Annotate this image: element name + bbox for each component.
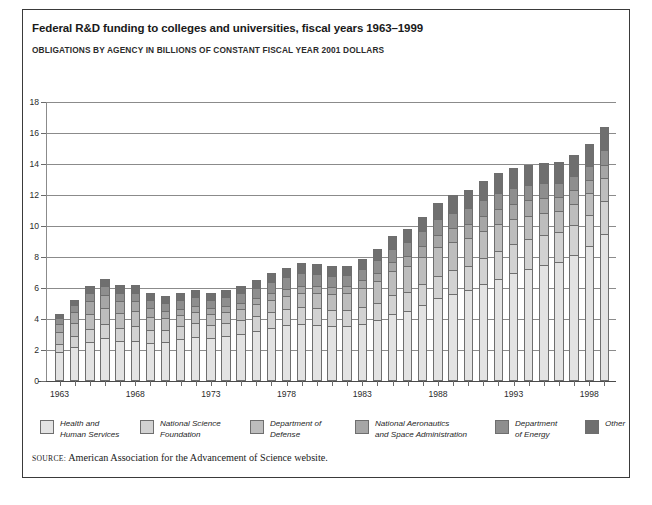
- bar-segment: [146, 293, 155, 300]
- x-tick-label: 1983: [353, 389, 372, 399]
- bar-segment: [267, 273, 276, 282]
- bar-segment: [494, 224, 503, 250]
- legend-item-4[interactable]: Department of Energy: [495, 419, 557, 440]
- x-tick-mark: [362, 381, 363, 386]
- bar-segment: [403, 229, 412, 242]
- bar-segment: [282, 289, 291, 296]
- x-tick-mark: [377, 381, 378, 386]
- x-tick-mark: [226, 381, 227, 386]
- bar-1988: [433, 203, 442, 381]
- bar-1985: [388, 236, 397, 381]
- bar-segment: [100, 338, 109, 381]
- bar-segment: [236, 309, 245, 320]
- source-note: SOURCE: American Association for the Adv…: [32, 452, 328, 463]
- bar-segment: [115, 313, 124, 328]
- page-subtitle: OBLIGATIONS BY AGENCY IN BILLIONS OF CON…: [32, 45, 384, 55]
- bar-segment: [176, 326, 185, 339]
- bar-segment: [85, 301, 94, 314]
- bar-segment: [539, 235, 548, 264]
- bar-segment: [342, 310, 351, 326]
- bar-segment: [403, 266, 412, 292]
- legend-label: National Science Foundation: [160, 419, 221, 440]
- legend-label: Department of Energy: [515, 419, 557, 440]
- bar-segment: [418, 305, 427, 381]
- bar-1993: [509, 168, 518, 381]
- bar-segment: [312, 286, 321, 293]
- bar-segment: [373, 249, 382, 260]
- bar-segment: [600, 150, 609, 165]
- bar-segment: [131, 311, 140, 326]
- bar-segment: [282, 296, 291, 309]
- bar-1973: [206, 293, 215, 381]
- bar-segment: [479, 216, 488, 231]
- bar-segment: [433, 276, 442, 298]
- bar-segment: [342, 275, 351, 287]
- legend-item-3[interactable]: National Aeronautics and Space Administr…: [355, 419, 467, 440]
- x-tick-mark: [302, 381, 303, 386]
- x-tick-label: 1978: [277, 389, 296, 399]
- legend-swatch-icon: [40, 420, 54, 434]
- bar-segment: [358, 280, 367, 288]
- x-tick-label: 1988: [428, 389, 447, 399]
- bar-segment: [297, 324, 306, 381]
- bar-segment: [161, 330, 170, 342]
- bar-1967: [115, 285, 124, 381]
- bar-segment: [569, 225, 578, 255]
- bar-segment: [403, 256, 412, 266]
- x-tick-mark: [453, 381, 454, 386]
- x-tick-mark: [241, 381, 242, 386]
- bar-segment: [509, 244, 518, 273]
- bar-segment: [539, 163, 548, 183]
- bar-segment: [115, 285, 124, 293]
- y-tick-label: 18: [29, 97, 39, 107]
- bar-segment: [221, 323, 230, 336]
- bar-segment: [221, 336, 230, 381]
- x-tick-mark: [514, 381, 515, 386]
- bar-segment: [100, 279, 109, 287]
- bar-segment: [403, 242, 412, 256]
- y-tick-label: 12: [29, 190, 39, 200]
- bar-segment: [85, 293, 94, 301]
- bar-segment: [509, 168, 518, 188]
- bar-1984: [373, 249, 382, 381]
- x-tick-mark: [544, 381, 545, 386]
- bar-segment: [115, 301, 124, 313]
- bar-segment: [176, 293, 185, 300]
- legend-item-1[interactable]: National Science Foundation: [140, 419, 221, 440]
- legend-swatch-icon: [355, 420, 369, 434]
- bar-segment: [554, 211, 563, 233]
- bar-segment: [55, 352, 64, 381]
- y-tick-label: 6: [34, 283, 39, 293]
- bar-segment: [191, 323, 200, 337]
- bar-segment: [267, 300, 276, 312]
- bar-segment: [433, 247, 442, 276]
- bar-segment: [327, 266, 336, 275]
- bar-1977: [267, 273, 276, 381]
- legend-item-0[interactable]: Health and Human Services: [40, 419, 119, 440]
- bar-1994: [524, 165, 533, 381]
- bar-segment: [524, 269, 533, 381]
- bar-segment: [100, 295, 109, 308]
- bar-segment: [494, 193, 503, 209]
- bar-segment: [418, 217, 427, 232]
- bar-segment: [448, 242, 457, 271]
- bar-1990: [464, 190, 473, 381]
- x-tick-label: 1963: [50, 389, 69, 399]
- legend-label: National Aeronautics and Space Administr…: [375, 419, 467, 440]
- x-tick-mark: [90, 381, 91, 386]
- bar-segment: [146, 308, 155, 317]
- x-tick-mark: [120, 381, 121, 386]
- bar-segment: [373, 320, 382, 381]
- bar-segment: [297, 286, 306, 293]
- bar-segment: [585, 144, 594, 166]
- bar-segment: [524, 239, 533, 268]
- x-tick-mark: [423, 381, 424, 386]
- bar-segment: [494, 279, 503, 381]
- bar-segment: [267, 282, 276, 293]
- legend-item-5[interactable]: Other: [585, 419, 625, 434]
- bar-segment: [206, 300, 215, 309]
- legend-item-2[interactable]: Department of Defense: [250, 419, 321, 440]
- x-tick-mark: [271, 381, 272, 386]
- y-tick-label: 14: [29, 159, 39, 169]
- bar-segment: [600, 234, 609, 381]
